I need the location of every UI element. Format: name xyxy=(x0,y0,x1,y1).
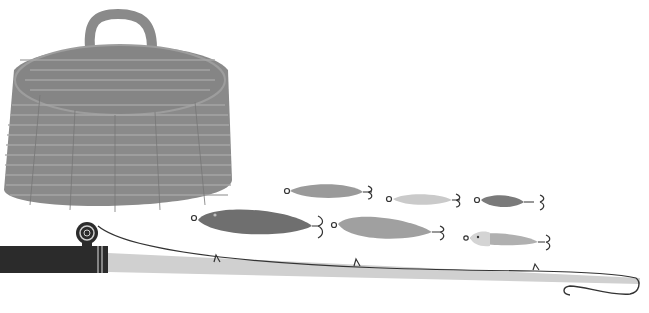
lure-4 xyxy=(192,210,323,238)
lure-5 xyxy=(332,217,444,240)
lure-6 xyxy=(464,232,550,250)
lure-2 xyxy=(387,194,461,207)
fishing-rod xyxy=(0,222,640,295)
fishing-gear-illustration xyxy=(0,0,649,313)
basket xyxy=(4,14,232,212)
lure-3 xyxy=(475,195,544,210)
lure-1 xyxy=(285,184,373,199)
